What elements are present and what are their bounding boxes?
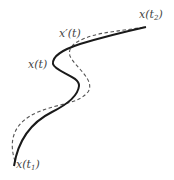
true-path-solid <box>14 27 146 166</box>
label-x-t2-base: x(t <box>139 8 154 21</box>
label-x-t1-base: x(t <box>16 158 31 171</box>
perturbed-path-dashed <box>12 27 146 161</box>
label-x-prime-text: x′(t) <box>59 27 81 40</box>
label-x-t: x(t) <box>28 59 47 70</box>
label-x-t-text: x(t) <box>28 58 47 71</box>
label-x-t1: x(t1) <box>16 159 40 172</box>
label-x-t2-close: ) <box>158 8 162 21</box>
label-x-prime-t: x′(t) <box>59 28 81 39</box>
label-x-t1-close: ) <box>35 158 39 171</box>
diagram-canvas <box>0 0 174 180</box>
label-x-t2: x(t2) <box>139 9 163 22</box>
